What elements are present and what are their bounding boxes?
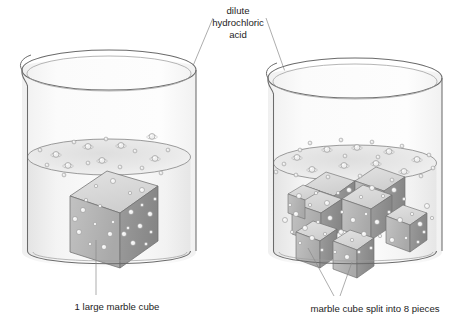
beaker-left (20, 50, 196, 268)
caption-left-text: 1 large marble cube (75, 301, 160, 312)
beaker-right (266, 58, 442, 278)
surface-area-reaction-diagram: dilute hydrochloric acid (0, 0, 470, 327)
marble-cube-piece-front-centre (333, 230, 374, 278)
acid-label-line-2: hydrochloric (212, 17, 264, 28)
diagram-root: dilute hydrochloric acid (0, 0, 470, 327)
caption-right-text: marble cube split into 8 pieces (310, 303, 439, 314)
acid-label-line-3: acid (229, 29, 247, 40)
acid-label-line-1: dilute (227, 5, 250, 16)
beaker-left-liquid-surface (28, 139, 191, 175)
label-dilute-hydrochloric-acid: dilute hydrochloric acid (212, 5, 264, 40)
